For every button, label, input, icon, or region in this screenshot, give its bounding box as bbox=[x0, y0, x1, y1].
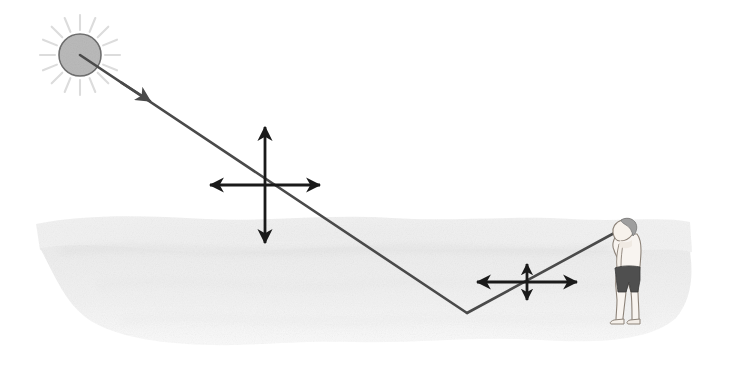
diagram-svg bbox=[0, 0, 730, 379]
ground-shade-1 bbox=[60, 248, 610, 252]
observer-shorts bbox=[615, 266, 640, 292]
ground-body bbox=[40, 245, 691, 345]
ground-surface bbox=[36, 216, 692, 345]
incident-ray-arrowhead bbox=[121, 83, 150, 101]
figure-canvas bbox=[0, 0, 730, 379]
